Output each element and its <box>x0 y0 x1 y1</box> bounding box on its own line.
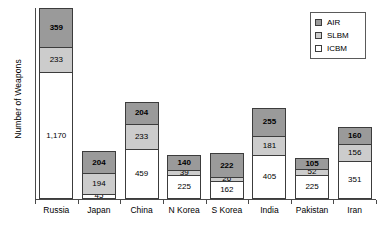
legend-swatch-air-icon <box>315 19 322 26</box>
category-label-pakistan: Pakistan <box>291 205 334 215</box>
bar-japan: 20419445 <box>82 151 116 199</box>
legend-item-slbm: SLBM <box>315 29 361 42</box>
x-axis-tick <box>291 200 292 204</box>
bar-segment-air: 204 <box>125 102 159 124</box>
bar-segment-icbm: 45 <box>82 194 116 199</box>
bar-segment-air: 204 <box>82 151 116 173</box>
bar-segment-value: 105 <box>305 160 318 168</box>
x-axis-tick <box>163 200 164 204</box>
bar-segment-value: 225 <box>178 183 191 191</box>
bar-iran: 160156351 <box>338 127 372 199</box>
bar-segment-value: 140 <box>178 159 191 167</box>
bar-segment-value: 181 <box>263 142 276 150</box>
bar-segment-icbm: 1,170 <box>39 72 73 199</box>
category-label-iran: Iran <box>333 205 376 215</box>
x-axis-tick <box>120 200 121 204</box>
bar-india: 255181405 <box>252 108 286 199</box>
bar-segment-value: 459 <box>135 170 148 178</box>
bar-russia: 3592331,170 <box>39 8 73 199</box>
x-axis-tick <box>35 200 36 204</box>
bar-segment-value: 156 <box>348 149 361 157</box>
bar-segment-icbm: 225 <box>167 175 201 199</box>
bar-pakistan: 10552225 <box>295 158 329 199</box>
bar-n-korea: 14039225 <box>167 155 201 199</box>
bar-segment-value: 255 <box>263 118 276 126</box>
legend-swatch-slbm-icon <box>315 32 322 39</box>
bar-segment-icbm: 459 <box>125 149 159 199</box>
x-axis-tick <box>206 200 207 204</box>
bar-segment-value: 359 <box>50 24 63 32</box>
bar-segment-air: 255 <box>252 108 286 136</box>
bar-segment-value: 160 <box>348 132 361 140</box>
x-axis-tick <box>376 200 377 204</box>
bar-segment-air: 359 <box>39 8 73 47</box>
bar-segment-value: 204 <box>92 159 105 167</box>
bar-segment-value: 204 <box>135 109 148 117</box>
bar-segment-icbm: 405 <box>252 155 286 199</box>
bar-segment-icbm: 225 <box>295 175 329 199</box>
bar-segment-value: 233 <box>50 56 63 64</box>
legend-swatch-icbm-icon <box>315 45 322 52</box>
bar-segment-value: 194 <box>92 180 105 188</box>
category-label-japan: Japan <box>78 205 121 215</box>
stacked-bar-chart: Number of Weapons 3592331,17020419445204… <box>0 0 381 231</box>
y-axis-title: Number of Weapons <box>13 34 23 164</box>
bar-segment-icbm: 162 <box>210 181 244 199</box>
legend-label-slbm: SLBM <box>327 32 349 40</box>
legend-label-air: AIR <box>327 19 340 27</box>
bar-s-korea: 22226162 <box>210 153 244 199</box>
bar-segment-value: 45 <box>94 194 103 199</box>
x-axis-tick <box>248 200 249 204</box>
bar-segment-value: 405 <box>263 173 276 181</box>
bar-segment-air: 105 <box>295 158 329 169</box>
legend-item-icbm: ICBM <box>315 42 361 55</box>
bar-segment-value: 222 <box>220 162 233 170</box>
chart-legend: AIR SLBM ICBM <box>310 12 366 59</box>
category-label-n-korea: N Korea <box>163 205 206 215</box>
x-axis-tick <box>333 200 334 204</box>
bar-segment-air: 140 <box>167 155 201 170</box>
bar-segment-air: 222 <box>210 153 244 177</box>
bar-china: 204233459 <box>125 102 159 199</box>
bar-segment-slbm: 194 <box>82 173 116 194</box>
bar-segment-slbm: 156 <box>338 144 372 161</box>
bar-segment-value: 351 <box>348 176 361 184</box>
bar-segment-value: 1,170 <box>46 132 66 140</box>
bar-segment-icbm: 351 <box>338 161 372 199</box>
category-label-russia: Russia <box>35 205 78 215</box>
bar-segment-slbm: 233 <box>39 47 73 72</box>
legend-item-air: AIR <box>315 16 361 29</box>
category-label-s-korea: S Korea <box>206 205 249 215</box>
x-axis-tick <box>78 200 79 204</box>
bar-segment-value: 162 <box>220 186 233 194</box>
bar-segment-slbm: 233 <box>125 124 159 149</box>
category-label-india: India <box>248 205 291 215</box>
legend-label-icbm: ICBM <box>327 45 347 53</box>
bar-segment-value: 233 <box>135 133 148 141</box>
category-label-china: China <box>120 205 163 215</box>
bar-segment-air: 160 <box>338 127 372 144</box>
bar-segment-value: 225 <box>305 183 318 191</box>
bar-segment-slbm: 181 <box>252 136 286 156</box>
